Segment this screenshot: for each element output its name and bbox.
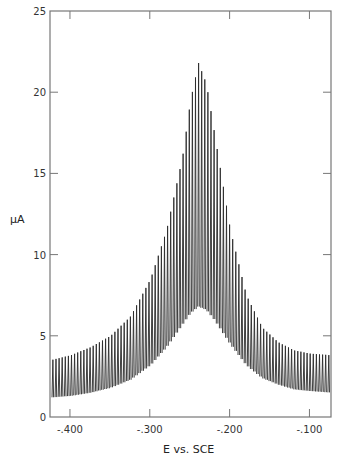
y-tick-label: 25	[33, 6, 46, 17]
x-tick-label: -.300	[137, 424, 163, 435]
y-tick-label: 10	[33, 250, 46, 261]
current-trace	[52, 63, 330, 397]
y-axis-label: μA	[10, 213, 25, 226]
plot-traces	[52, 63, 330, 397]
y-tick-label: 0	[40, 412, 46, 423]
y-tick-label: 15	[33, 168, 46, 179]
voltammogram-chart: 0510152025 -.400-.300-.200-.100 μA E vs.…	[0, 0, 337, 462]
y-tick-label: 20	[33, 87, 46, 98]
x-tick-label: -.200	[217, 424, 243, 435]
x-tick-label: -.100	[297, 424, 323, 435]
x-axis-label: E vs. SCE	[163, 443, 214, 456]
y-tick-label: 5	[40, 331, 46, 342]
x-tick-label: -.400	[57, 424, 83, 435]
